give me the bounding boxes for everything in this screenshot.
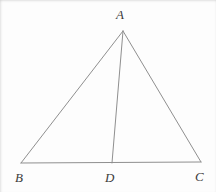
segment-cevian-AD (112, 31, 123, 163)
segment-side-AB (21, 31, 123, 163)
segment-side-AC (123, 31, 201, 162)
vertex-label-C: C (195, 170, 204, 183)
vertex-label-A: A (116, 8, 124, 21)
geometry-figure: A B D C (0, 0, 216, 192)
vertex-label-B: B (15, 171, 23, 184)
segments-group (21, 31, 201, 163)
triangle-diagram (0, 0, 216, 192)
vertex-label-D: D (105, 171, 114, 184)
segment-side-BC (21, 162, 201, 163)
